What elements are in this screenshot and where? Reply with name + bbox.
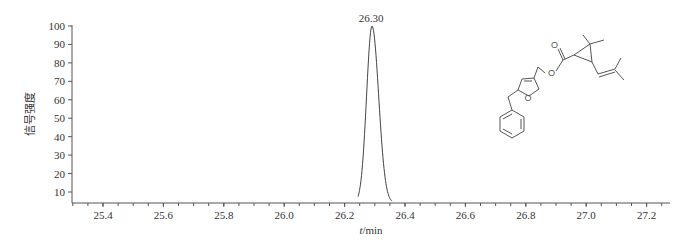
y-tick-label: 90: [54, 38, 66, 50]
x-tick-label: 25.6: [154, 209, 174, 221]
x-tick-label: 25.4: [93, 209, 113, 221]
x-tick-label: 27.0: [577, 209, 597, 221]
y-tick-label: 50: [54, 112, 66, 124]
y-tick-label: 20: [54, 168, 66, 180]
chemical-structure-inset: O O O: [500, 35, 624, 138]
y-tick-label: 80: [54, 57, 66, 69]
x-tick-label: 26.2: [335, 209, 354, 221]
y-tick-label: 60: [54, 94, 66, 106]
x-tick-label: 27.2: [637, 209, 656, 221]
y-tick-label: 40: [54, 131, 66, 143]
x-tick-label: 26.4: [395, 209, 415, 221]
y-tick-label: 30: [54, 149, 66, 161]
y-axis-title: 信号强度: [23, 92, 36, 136]
x-tick-label: 26.6: [456, 209, 476, 221]
y-axis: 102030405060708090100: [49, 20, 73, 203]
chromatogram-chart: 102030405060708090100 25.425.625.826.026…: [0, 0, 700, 249]
y-tick-label: 10: [54, 186, 66, 198]
plot-area: [358, 26, 392, 201]
y-tick-label: 100: [49, 20, 66, 32]
x-axis: 25.425.625.826.026.226.426.626.827.027.2: [72, 203, 670, 221]
x-tick-label: 26.8: [516, 209, 536, 221]
chromatogram-trace: [358, 26, 392, 201]
x-tick-label: 25.8: [214, 209, 234, 221]
x-axis-title: t/min: [359, 224, 383, 236]
x-tick-label: 26.0: [275, 209, 295, 221]
svg-text:O: O: [548, 68, 555, 78]
peak-annotation: 26.30: [359, 12, 384, 24]
svg-text:O: O: [524, 93, 531, 103]
svg-text:O: O: [551, 40, 558, 50]
y-tick-label: 70: [54, 75, 66, 87]
